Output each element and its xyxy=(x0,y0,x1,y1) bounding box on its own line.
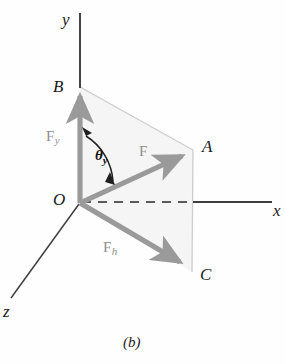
vector-fh-label: Fh xyxy=(103,240,117,257)
z-axis-line xyxy=(11,204,79,298)
point-a-label: A xyxy=(202,138,212,155)
point-b-label: B xyxy=(53,78,63,95)
vector-figure: y x z B O A C Fy F Fh θy (b) xyxy=(0,0,285,364)
vector-fh-subscript: h xyxy=(112,245,118,257)
vector-fy-subscript: y xyxy=(55,134,60,146)
vector-fh-symbol: F xyxy=(103,239,111,255)
theta-subscript: y xyxy=(103,154,108,166)
theta-symbol: θ xyxy=(95,147,103,163)
theta-y-label: θy xyxy=(95,148,108,166)
x-axis-label: x xyxy=(273,202,281,219)
z-axis-label: z xyxy=(3,303,10,320)
vector-fy-symbol: F xyxy=(46,128,54,144)
vector-diagram-canvas xyxy=(0,0,285,364)
vector-f-symbol: F xyxy=(139,143,147,159)
y-axis-label: y xyxy=(62,11,70,28)
figure-caption: (b) xyxy=(123,335,141,350)
vector-f-label: F xyxy=(139,144,148,161)
vector-fy-label: Fy xyxy=(46,129,60,146)
point-c-label: C xyxy=(200,266,211,283)
point-o-label: O xyxy=(53,191,65,208)
